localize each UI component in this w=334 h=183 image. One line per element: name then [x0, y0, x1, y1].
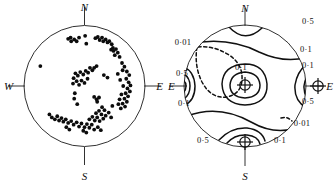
contour-label-left-05: 0·5	[176, 68, 188, 78]
data-point	[129, 83, 133, 87]
contour-upper-01	[189, 41, 308, 59]
data-point	[86, 77, 90, 81]
data-point	[95, 100, 99, 104]
data-point	[88, 66, 92, 70]
contour-label-lower-right-001: 0·01	[294, 118, 310, 128]
data-point	[124, 77, 128, 81]
data-point	[84, 131, 88, 135]
left-label-east: E	[155, 80, 163, 92]
contour-north-05	[229, 27, 262, 36]
data-point	[107, 111, 111, 115]
data-point	[103, 108, 107, 112]
data-point	[64, 125, 68, 129]
data-point	[87, 126, 91, 130]
data-point	[118, 78, 122, 82]
data-point	[77, 36, 81, 40]
data-point	[73, 91, 77, 95]
data-point	[110, 42, 114, 46]
data-point	[97, 109, 101, 113]
data-point	[116, 102, 120, 106]
data-point	[101, 117, 105, 121]
data-point	[123, 105, 127, 109]
data-point	[118, 55, 122, 59]
data-point	[99, 128, 103, 132]
maximum-east	[310, 78, 326, 94]
contour-label-bottom-01: 0·1	[274, 135, 286, 145]
data-point	[120, 61, 124, 65]
left-label-west: W	[4, 80, 14, 92]
data-point	[75, 120, 79, 124]
data-point	[67, 128, 71, 132]
data-point	[100, 36, 104, 40]
data-point	[77, 83, 81, 87]
data-point	[120, 93, 124, 97]
data-point	[92, 128, 96, 132]
data-point	[110, 104, 114, 108]
data-point	[84, 42, 88, 46]
contour-label-right-mid-01: 0·1	[302, 60, 314, 70]
data-point	[102, 73, 106, 77]
data-point	[83, 81, 87, 85]
data-point	[109, 116, 113, 120]
data-point	[72, 123, 76, 127]
data-point	[55, 114, 59, 118]
data-point	[119, 106, 123, 110]
data-point	[93, 119, 97, 123]
data-point	[75, 79, 79, 83]
contour-label-upper-left-001: 0·01	[175, 37, 191, 47]
figure-container: N S W E	[0, 0, 334, 183]
data-point	[87, 117, 91, 121]
data-point	[121, 102, 125, 106]
data-point	[48, 113, 52, 117]
data-point	[75, 102, 79, 106]
data-point	[72, 97, 76, 101]
data-point	[121, 84, 125, 88]
data-point	[116, 72, 120, 76]
contour-dashed-lower-001	[281, 117, 292, 121]
right-label-south: S	[242, 170, 248, 182]
data-point	[75, 39, 79, 43]
data-point	[83, 125, 87, 129]
data-point	[107, 39, 111, 43]
data-point	[53, 117, 57, 121]
data-point	[113, 53, 117, 57]
data-point	[126, 87, 130, 91]
left-label-south: S	[82, 170, 88, 182]
data-point	[95, 116, 99, 120]
data-point	[97, 96, 101, 100]
data-point	[60, 116, 64, 120]
panel-left-stereonet: N S W E	[0, 0, 167, 183]
data-point	[81, 73, 85, 77]
contour-label-right-lower-05: 0·5	[302, 96, 314, 106]
data-point	[121, 68, 125, 72]
data-point	[127, 73, 131, 77]
contour-label-left-01: 0·1	[178, 98, 190, 108]
data-point	[71, 82, 75, 86]
data-point	[104, 114, 108, 118]
contour-label-bottom-05: 0·5	[197, 135, 209, 145]
data-point	[77, 125, 81, 129]
data-point	[124, 91, 128, 95]
contour-label-top-right-05: 0·5	[302, 16, 314, 26]
data-point	[38, 64, 42, 68]
data-point	[69, 119, 73, 123]
right-label-east-left: E	[167, 80, 175, 92]
data-point	[125, 70, 129, 74]
data-point	[90, 123, 94, 127]
left-data-points	[38, 34, 132, 135]
left-axis-ticks	[8, 7, 161, 165]
maximum-south	[237, 134, 253, 150]
data-point	[83, 34, 87, 38]
data-point	[64, 117, 68, 121]
data-point	[90, 115, 94, 119]
data-point	[114, 47, 118, 51]
data-point	[123, 97, 127, 101]
data-point	[78, 70, 82, 74]
data-point	[116, 51, 120, 55]
data-point	[106, 76, 110, 80]
data-point	[96, 125, 100, 129]
data-point	[125, 100, 129, 104]
data-point	[85, 122, 89, 126]
left-stereonet-svg: N S W E	[0, 0, 167, 183]
data-point	[126, 94, 130, 98]
